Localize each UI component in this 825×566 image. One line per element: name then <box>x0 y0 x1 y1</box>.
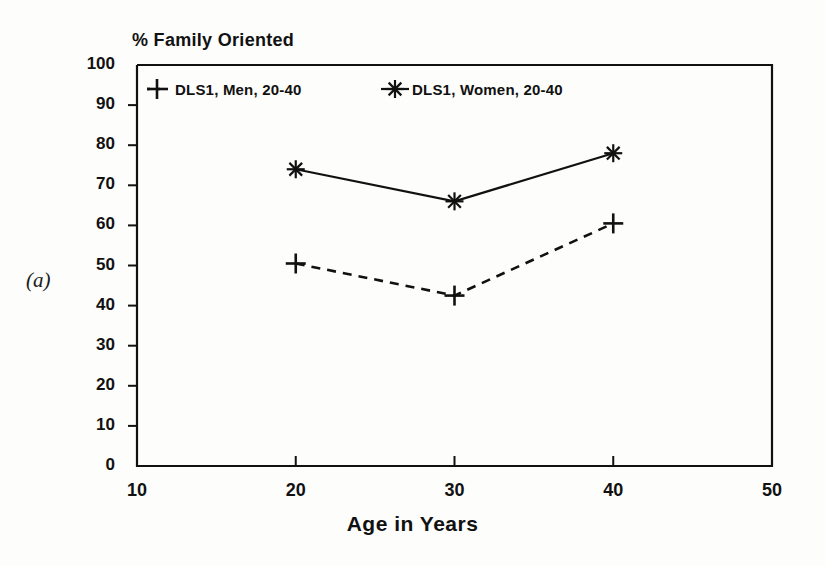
y-tick-label: 80 <box>71 134 115 154</box>
x-axis-ticks <box>296 456 614 466</box>
y-tick-label: 0 <box>71 455 115 475</box>
x-tick-label: 10 <box>112 480 162 501</box>
y-tick-label: 40 <box>71 295 115 315</box>
y-tick-label: 50 <box>71 255 115 275</box>
legend-label-women: DLS1, Women, 20-40 <box>412 81 563 98</box>
data-series-group <box>286 144 624 305</box>
y-tick-label: 10 <box>71 415 115 435</box>
axes-frame <box>137 65 772 466</box>
y-axis-ticks <box>128 105 137 426</box>
x-tick-label: 50 <box>747 480 797 501</box>
x-axis-title: Age in Years <box>0 512 825 536</box>
x-tick-label: 30 <box>430 480 480 501</box>
y-tick-label: 70 <box>71 174 115 194</box>
y-tick-label: 100 <box>71 54 115 74</box>
y-tick-label: 30 <box>71 335 115 355</box>
legend-label-men: DLS1, Men, 20-40 <box>175 81 302 98</box>
y-tick-label: 20 <box>71 375 115 395</box>
x-tick-label: 40 <box>588 480 638 501</box>
series-line <box>296 223 614 295</box>
y-tick-label: 60 <box>71 214 115 234</box>
y-tick-label: 90 <box>71 94 115 114</box>
x-tick-label: 20 <box>271 480 321 501</box>
plot-border <box>137 65 772 466</box>
figure-page: (a) % Family Oriented 010203040506070809… <box>0 0 825 566</box>
